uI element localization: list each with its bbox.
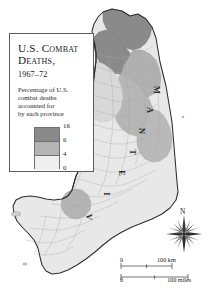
country-letter-v: V	[84, 214, 92, 220]
compass-rose: N	[166, 207, 202, 253]
legend-caption-line-1: Percentage of U.S.	[18, 86, 86, 94]
map-title-line-1: U.S. Combat	[18, 42, 86, 54]
map-title-line-2: Deaths,	[18, 54, 86, 66]
scale-km-zero-label: 0	[120, 256, 123, 263]
legend-label-0: 0	[63, 164, 66, 171]
legend-value-labels: 16 6 4 0	[63, 122, 85, 174]
country-letter-e: E	[117, 170, 125, 176]
country-letter-t: T	[128, 149, 136, 155]
map-title-dates: 1967–72	[18, 70, 86, 80]
thematic-map: U.S. Combat Deaths, 1967–72 Percentage o…	[0, 0, 210, 306]
scale-bars: 0 100 km 0 100 miles	[120, 256, 204, 290]
legend-swatch-high	[35, 128, 59, 142]
map-title-legend-inset: U.S. Combat Deaths, 1967–72 Percentage o…	[9, 33, 94, 172]
country-letter-i: I	[102, 192, 110, 195]
scale-miles-zero-label: 0	[120, 276, 123, 283]
legend-caption: Percentage of U.S. combat deaths account…	[18, 86, 86, 118]
scale-miles-max-label: 100 miles	[167, 276, 191, 283]
legend-swatch-mid	[35, 142, 59, 156]
country-letter-a: A	[145, 107, 153, 113]
legend-label-16: 16	[63, 122, 70, 129]
legend-caption-line-3: accounted for	[18, 102, 86, 110]
legend-caption-line-4: by each province	[18, 110, 86, 118]
compass-north-label: N	[180, 207, 185, 216]
legend-caption-line-2: combat deaths	[18, 94, 86, 102]
legend-label-4: 4	[63, 150, 66, 157]
scale-km-max-label: 100 km	[157, 256, 176, 263]
legend-label-6: 6	[63, 136, 66, 143]
legend-color-ramp	[34, 127, 60, 169]
country-letter-n: N	[137, 128, 145, 134]
legend-swatch-low	[35, 156, 59, 170]
country-letter-m: M	[152, 86, 160, 94]
